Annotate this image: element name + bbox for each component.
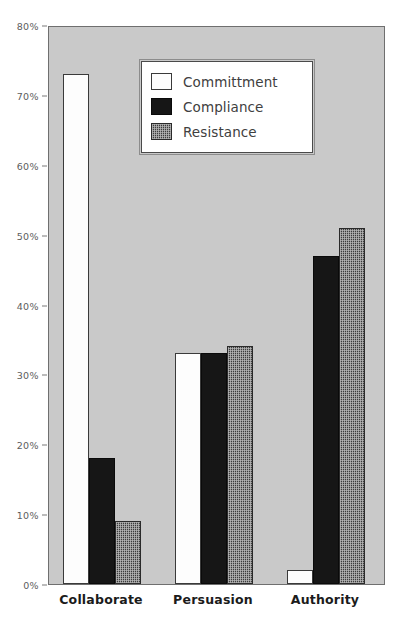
y-axis-tick-label: 50% (0, 230, 39, 241)
legend-item-resistance: Resistance (151, 119, 304, 144)
y-axis-tick-label: 20% (0, 440, 39, 451)
legend-item-compliance: Compliance (151, 94, 304, 119)
bar-persuasion-committment (175, 353, 201, 584)
bar-persuasion-compliance (201, 353, 227, 584)
y-axis-tick-mark (42, 26, 47, 27)
x-axis-category-label: Persuasion (173, 592, 253, 607)
y-axis-tick-label: 0% (0, 580, 39, 591)
legend-label: Resistance (183, 124, 257, 140)
y-axis-tick-mark (42, 445, 47, 446)
bar-collaborate-committment (63, 74, 89, 584)
y-axis-tick-label: 40% (0, 300, 39, 311)
chart-legend: CommittmentComplianceResistance (141, 61, 313, 153)
bar-group-collaborate (63, 27, 141, 584)
bar-authority-compliance (313, 256, 339, 584)
legend-item-committment: Committment (151, 69, 304, 94)
legend-swatch-resistance-icon (151, 123, 172, 140)
y-axis-tick-label: 30% (0, 370, 39, 381)
y-axis-tick-mark (42, 95, 47, 96)
legend-label: Compliance (183, 99, 263, 115)
bar-authority-committment (287, 570, 313, 584)
legend-swatch-committment-icon (151, 73, 172, 90)
y-axis-tick-label: 60% (0, 160, 39, 171)
y-axis: 0%10%20%30%40%50%60%70%80% (0, 0, 46, 626)
x-axis-category-label: Collaborate (59, 592, 143, 607)
y-axis-tick-label: 80% (0, 21, 39, 32)
y-axis-tick-mark (42, 515, 47, 516)
y-axis-tick-mark (42, 305, 47, 306)
y-axis-tick-label: 10% (0, 510, 39, 521)
y-axis-tick-mark (42, 375, 47, 376)
bar-collaborate-compliance (89, 458, 115, 584)
bar-chart: 0%10%20%30%40%50%60%70%80% CollaboratePe… (0, 0, 402, 626)
y-axis-tick-mark (42, 165, 47, 166)
x-axis-category-label: Authority (291, 592, 359, 607)
legend-swatch-compliance-icon (151, 98, 172, 115)
y-axis-tick-mark (42, 585, 47, 586)
y-axis-tick-mark (42, 235, 47, 236)
bar-authority-resistance (339, 228, 365, 584)
x-axis: CollaboratePersuasionAuthority (48, 592, 385, 620)
y-axis-tick-label: 70% (0, 90, 39, 101)
bar-collaborate-resistance (115, 521, 141, 584)
legend-label: Committment (183, 74, 278, 90)
bar-persuasion-resistance (227, 346, 253, 584)
